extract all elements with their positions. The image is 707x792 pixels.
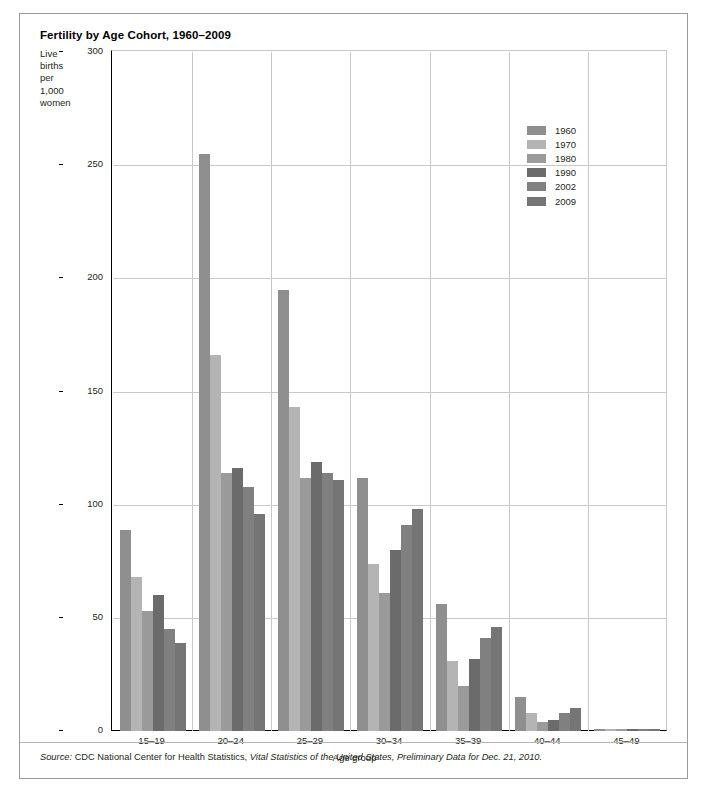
legend-item: 2009 <box>527 194 637 208</box>
bar <box>131 577 142 731</box>
source-plain: CDC National Center for Health Statistic… <box>72 752 250 762</box>
y-tick-label: 200 <box>63 271 103 282</box>
legend-label: 1970 <box>555 139 576 150</box>
bar-group <box>113 52 192 731</box>
screenshot-root: { "chart_data": { "type": "bar", "title"… <box>0 0 707 792</box>
bar <box>458 686 469 731</box>
y-tick-label: 150 <box>63 385 103 396</box>
bar <box>480 638 491 731</box>
y-tick-mark <box>59 617 63 618</box>
bar <box>311 462 322 731</box>
legend-label: 1960 <box>555 125 576 136</box>
legend-label: 1990 <box>555 167 576 178</box>
legend-item: 1960 <box>527 123 637 137</box>
y-tick-mark <box>59 504 63 505</box>
bar <box>322 473 333 731</box>
bar <box>120 530 131 731</box>
bar <box>548 720 559 731</box>
bar <box>333 480 344 731</box>
bar <box>638 729 649 731</box>
bar <box>379 593 390 731</box>
bar <box>254 514 265 731</box>
footer-divider <box>20 742 687 743</box>
y-axis-caption-line-4: women <box>40 97 86 109</box>
y-axis-caption-line-1: births <box>40 60 86 72</box>
bar <box>594 729 605 731</box>
legend-label: 2009 <box>555 196 576 207</box>
bar <box>390 550 401 731</box>
bar <box>232 468 243 731</box>
bar-group <box>430 52 509 731</box>
bar <box>469 659 480 731</box>
y-tick-label: 0 <box>63 724 103 735</box>
bar <box>559 713 570 731</box>
x-tick-label: 45–49 <box>587 735 666 746</box>
bar <box>491 627 502 731</box>
y-tick-mark <box>59 391 63 392</box>
bar <box>627 729 638 731</box>
bar <box>412 509 423 731</box>
bar <box>570 708 581 731</box>
y-tick-label: 50 <box>63 611 103 622</box>
x-tick-label: 35–39 <box>429 735 508 746</box>
bar <box>142 611 153 731</box>
bar <box>436 604 447 731</box>
bar <box>447 661 458 731</box>
y-tick-label: 100 <box>63 498 103 509</box>
bar <box>357 478 368 731</box>
bar <box>368 564 379 731</box>
legend-item: 1970 <box>527 137 637 151</box>
legend-swatch <box>527 168 546 177</box>
y-tick-mark <box>59 277 63 278</box>
y-tick-mark <box>59 730 63 731</box>
legend-label: 2002 <box>555 181 576 192</box>
y-tick-label: 250 <box>63 158 103 169</box>
bar <box>300 478 311 731</box>
bar <box>210 355 221 731</box>
legend: 196019701980199020022009 <box>527 123 637 208</box>
bar <box>278 290 289 731</box>
chart-card: Fertility by Age Cohort, 1960–2009 Live … <box>19 13 688 779</box>
bar <box>649 729 660 731</box>
legend-item: 1990 <box>527 166 637 180</box>
legend-swatch <box>527 140 546 149</box>
bar <box>605 729 616 731</box>
legend-swatch <box>527 154 546 163</box>
x-tick-label: 15–19 <box>112 735 191 746</box>
source-prefix: Source: <box>40 752 72 762</box>
x-axis-labels: 15–1920–2425–2930–3435–3940–4445–49 <box>112 735 666 746</box>
legend-swatch <box>527 126 546 135</box>
page-title: Fertility by Age Cohort, 1960–2009 <box>40 29 231 41</box>
legend-swatch <box>527 182 546 191</box>
y-tick-label: 300 <box>63 45 103 56</box>
y-axis-caption-line-3: 1,000 <box>40 85 86 97</box>
bar <box>164 629 175 731</box>
bar-group <box>192 52 271 731</box>
bar <box>616 729 627 731</box>
bar <box>289 407 300 731</box>
legend-item: 2002 <box>527 180 637 194</box>
y-tick-mark <box>59 164 63 165</box>
legend-swatch <box>527 197 546 206</box>
bar <box>537 722 548 731</box>
bar <box>199 154 210 731</box>
bar <box>175 643 186 731</box>
x-tick-label: 20–24 <box>191 735 270 746</box>
bar <box>526 713 537 731</box>
source-italic: Vital Statistics of the United States, P… <box>250 752 542 762</box>
bar <box>153 595 164 731</box>
legend-item: 1980 <box>527 151 637 165</box>
bar-group <box>271 52 350 731</box>
x-tick-label: 40–44 <box>508 735 587 746</box>
y-axis-caption-line-2: per <box>40 72 86 84</box>
bar <box>221 473 232 731</box>
y-axis-caption: Live births per 1,000 women <box>40 48 86 109</box>
y-tick-mark <box>59 51 63 52</box>
x-tick-label: 25–29 <box>270 735 349 746</box>
source-note: Source: CDC National Center for Health S… <box>40 751 671 763</box>
x-tick-label: 30–34 <box>349 735 428 746</box>
legend-label: 1980 <box>555 153 576 164</box>
bar <box>515 697 526 731</box>
bar-group <box>350 52 429 731</box>
bar <box>243 487 254 731</box>
